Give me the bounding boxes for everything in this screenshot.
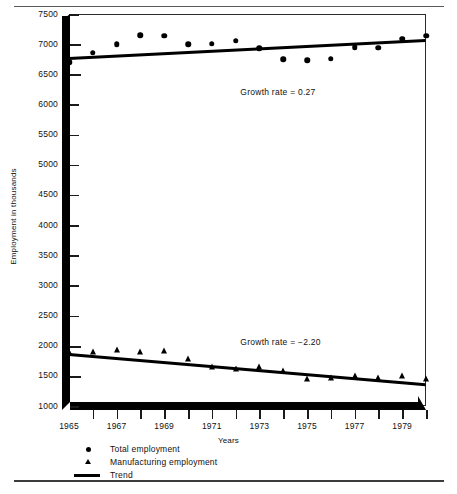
data-point-manufacturing-employment bbox=[304, 376, 310, 382]
y-axis-tick-label: 1500 bbox=[24, 371, 58, 380]
y-axis-tick-label: 6000 bbox=[24, 100, 58, 109]
x-axis-tick bbox=[140, 410, 142, 419]
trend-line bbox=[69, 39, 426, 60]
triangle-marker-icon bbox=[74, 456, 106, 468]
data-point-total-employment bbox=[376, 45, 382, 51]
circle-marker-icon-glyph bbox=[86, 447, 91, 452]
data-point-total-employment bbox=[328, 56, 334, 62]
x-axis-tick bbox=[93, 410, 95, 419]
x-axis-tick-label: 1973 bbox=[250, 421, 270, 431]
line-marker-icon-glyph bbox=[74, 474, 100, 477]
x-axis-tick-label: 1979 bbox=[392, 421, 412, 431]
y-axis-tick-label: 5500 bbox=[24, 130, 58, 139]
y-axis-tick-label: 2500 bbox=[24, 311, 58, 320]
y-axis-tick-label: 4000 bbox=[24, 221, 58, 230]
y-axis-tick bbox=[70, 406, 79, 408]
data-point-total-employment bbox=[161, 33, 167, 39]
data-point-manufacturing-employment bbox=[114, 346, 120, 352]
x-axis-tick-label: 1975 bbox=[297, 421, 317, 431]
y-axis-tick-label: 3000 bbox=[24, 281, 58, 290]
y-axis-tick-label: 2000 bbox=[24, 341, 58, 350]
x-axis-tick bbox=[307, 410, 309, 419]
data-point-total-employment bbox=[114, 41, 120, 47]
x-axis-tick-label: 1965 bbox=[59, 421, 79, 431]
x-axis-tick bbox=[402, 410, 404, 419]
y-axis-tick-label: 3500 bbox=[24, 251, 58, 260]
legend-item: Trend bbox=[74, 469, 314, 482]
trend-line bbox=[69, 353, 426, 386]
plot-area: Growth rate = 0.27Growth rate = −2.20 bbox=[69, 14, 426, 406]
y-axis-tick-label: 6500 bbox=[24, 70, 58, 79]
legend: Total employmentManufacturing employment… bbox=[74, 443, 314, 482]
data-point-total-employment bbox=[66, 59, 72, 65]
x-axis-tick bbox=[117, 410, 119, 419]
x-axis-tick-label: 1977 bbox=[345, 421, 365, 431]
data-point-total-employment bbox=[138, 32, 144, 38]
data-point-manufacturing-employment bbox=[90, 348, 96, 354]
data-point-manufacturing-employment bbox=[137, 348, 143, 354]
growth-rate-annotation: Growth rate = 0.27 bbox=[240, 87, 315, 97]
y-axis-tick-labels: 1000150020002500300035004000450050005500… bbox=[22, 0, 58, 494]
x-axis-tick bbox=[331, 410, 333, 419]
legend-item: Manufacturing employment bbox=[74, 456, 314, 469]
top-divider-rule bbox=[14, 6, 444, 7]
y-axis-tick-label: 7500 bbox=[24, 10, 58, 19]
x-axis-tick bbox=[426, 410, 428, 419]
growth-rate-annotation: Growth rate = −2.20 bbox=[240, 337, 320, 347]
x-axis-tick-label: 1967 bbox=[107, 421, 127, 431]
y-axis-tick-label: 7000 bbox=[24, 40, 58, 49]
legend-item: Total employment bbox=[74, 443, 314, 456]
legend-item-label: Trend bbox=[110, 470, 133, 480]
data-point-total-employment bbox=[233, 38, 239, 44]
y-axis-title: Employment in thousands bbox=[9, 152, 18, 282]
data-point-total-employment bbox=[209, 41, 215, 47]
x-axis-tick bbox=[212, 410, 214, 419]
x-axis-tick bbox=[378, 410, 380, 419]
data-point-manufacturing-employment bbox=[161, 348, 167, 354]
y-axis-tick-label: 5000 bbox=[24, 160, 58, 169]
x-axis-tick bbox=[188, 410, 190, 419]
triangle-marker-icon-glyph bbox=[85, 459, 91, 464]
data-point-total-employment bbox=[280, 56, 286, 62]
x-axis-tick bbox=[283, 410, 285, 419]
x-axis-tick-label: 1971 bbox=[202, 421, 222, 431]
data-point-total-employment bbox=[185, 41, 191, 47]
data-point-total-employment bbox=[423, 33, 429, 39]
x-axis-tick bbox=[236, 410, 238, 419]
legend-item-label: Manufacturing employment bbox=[110, 457, 217, 467]
y-axis-tick-label: 1000 bbox=[24, 402, 58, 411]
x-axis-tick bbox=[355, 410, 357, 419]
x-axis-tick-label: 1969 bbox=[154, 421, 174, 431]
x-axis-tick bbox=[259, 410, 261, 419]
data-point-manufacturing-employment bbox=[399, 372, 405, 378]
circle-marker-icon bbox=[74, 443, 106, 455]
line-marker-icon bbox=[74, 469, 106, 481]
x-axis-tick bbox=[164, 410, 166, 419]
y-axis-tick-label: 4500 bbox=[24, 190, 58, 199]
data-point-manufacturing-employment bbox=[185, 355, 191, 361]
data-point-total-employment bbox=[304, 58, 310, 64]
data-point-total-employment bbox=[90, 50, 96, 56]
legend-item-label: Total employment bbox=[110, 444, 180, 454]
data-point-manufacturing-employment bbox=[423, 376, 429, 382]
